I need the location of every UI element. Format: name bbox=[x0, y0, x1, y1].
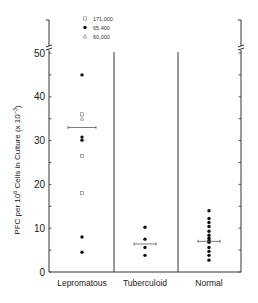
filled-circle-marker bbox=[80, 138, 83, 141]
y-axis-label: PFC per 106 Cells in Culture (x 10−3) bbox=[12, 105, 22, 235]
filled-circle-marker bbox=[80, 135, 83, 138]
category-label: Normal bbox=[195, 278, 223, 288]
axis-break-mark bbox=[46, 45, 52, 50]
legend-entry: 171,000 bbox=[93, 16, 113, 22]
open-square-marker bbox=[80, 154, 83, 157]
filled-circle-marker bbox=[143, 254, 146, 257]
data-points bbox=[80, 73, 211, 262]
scatter-chart: 01020304050 171,00065,40060,000 Lepromat… bbox=[0, 0, 258, 303]
y-tick-label: 0 bbox=[39, 267, 45, 278]
category-label: Lepromatous bbox=[57, 278, 107, 288]
left-axis-upper bbox=[46, 20, 49, 46]
filled-circle-marker bbox=[207, 246, 210, 249]
open-triangle-marker bbox=[80, 117, 84, 120]
y-tick-label: 50 bbox=[34, 48, 46, 59]
filled-circle-marker bbox=[207, 225, 210, 228]
axis-break-mark bbox=[238, 45, 244, 50]
filled-circle-marker bbox=[207, 221, 210, 224]
filled-circle-marker bbox=[207, 258, 210, 261]
y-tick-label: 10 bbox=[34, 223, 46, 234]
open-triangle-marker bbox=[83, 35, 87, 38]
right-axis-upper bbox=[238, 20, 241, 46]
filled-circle-marker bbox=[207, 209, 210, 212]
filled-circle-marker bbox=[207, 254, 210, 257]
filled-circle-marker bbox=[83, 26, 86, 29]
legend: 171,00065,40060,000 bbox=[83, 16, 113, 40]
y-tick-label: 30 bbox=[34, 135, 46, 146]
filled-circle-marker bbox=[143, 226, 146, 229]
filled-circle-marker bbox=[143, 246, 146, 249]
y-tick-label: 40 bbox=[34, 91, 46, 102]
filled-circle-marker bbox=[207, 217, 210, 220]
legend-entry: 65,400 bbox=[93, 25, 110, 31]
filled-circle-marker bbox=[207, 250, 210, 253]
filled-circle-marker bbox=[143, 237, 146, 240]
filled-circle-marker bbox=[80, 235, 83, 238]
open-square-marker bbox=[80, 192, 83, 195]
y-tick-label: 20 bbox=[34, 179, 46, 190]
axes bbox=[46, 20, 244, 272]
open-square-marker bbox=[83, 17, 86, 20]
open-square-marker bbox=[80, 113, 83, 116]
category-labels: LepromatousTuberculoidNormal bbox=[57, 278, 223, 288]
filled-circle-marker bbox=[207, 230, 210, 233]
filled-circle-marker bbox=[80, 251, 83, 254]
filled-circle-marker bbox=[207, 234, 210, 237]
category-label: Tuberculoid bbox=[123, 278, 167, 288]
filled-circle-marker bbox=[80, 73, 83, 76]
legend-entry: 60,000 bbox=[93, 34, 110, 40]
